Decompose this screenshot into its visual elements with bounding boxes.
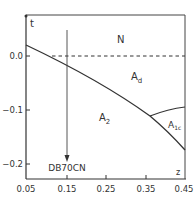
region-a2-label: A2: [99, 112, 110, 126]
corner-dot: [25, 15, 28, 18]
x-tick-label: 0.15: [58, 184, 77, 194]
ad-a1c-boundary-curve: [150, 107, 185, 116]
x-tick-label: 0.35: [137, 184, 156, 194]
x-tick-label: 0.25: [97, 184, 116, 194]
y-tick-label: 0.0: [9, 51, 23, 61]
arrow-head-icon: [65, 155, 70, 162]
y-axis-label: t: [30, 18, 34, 29]
alloy-label: DB70CN: [48, 163, 86, 173]
region-ad-label: Ad: [131, 71, 142, 85]
chart-canvas: t z 0.0 −0.1 −0.2 0.05 0.15 0.25 0.35 0.…: [0, 0, 196, 203]
phase-diagram-chart: t z 0.0 −0.1 −0.2 0.05 0.15 0.25 0.35 0.…: [0, 0, 196, 203]
x-tick-label: 0.45: [175, 184, 194, 194]
y-tick-label: −0.2: [2, 159, 23, 169]
y-tick-label: −0.1: [2, 105, 23, 115]
region-n-label: N: [117, 34, 124, 45]
x-tick-label: 0.05: [17, 184, 36, 194]
a2-ad-boundary-curve: [26, 45, 185, 150]
x-axis-label: z: [176, 168, 180, 177]
region-a1c-label: A1c: [168, 120, 181, 131]
